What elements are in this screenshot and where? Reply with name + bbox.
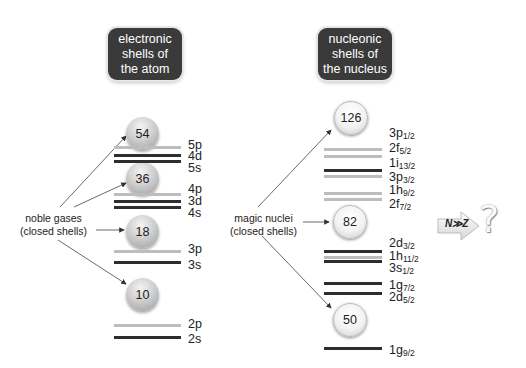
energy-level-2f5/2 [324, 155, 382, 158]
magic-number-ball: 82 [333, 205, 367, 239]
question-mark-icon: ? [479, 199, 499, 239]
level-label: 1g9/2 [389, 344, 415, 356]
energy-level-5p [114, 146, 181, 149]
level-label: 4s [188, 207, 201, 219]
energy-level-3s [114, 261, 181, 264]
magic-number-ball: 50 [333, 303, 367, 337]
magic-number-ball: 126 [334, 101, 368, 135]
level-label: 2s [188, 333, 201, 345]
energy-level-2s [114, 336, 181, 339]
level-label: 1h9/2 [389, 184, 415, 196]
energy-level-4d [114, 154, 181, 157]
pointer-arrows [0, 0, 526, 368]
energy-level-1i13/2 [324, 169, 382, 172]
level-label: 2p [188, 318, 202, 330]
energy-level-1h9/2 [324, 192, 382, 195]
energy-level-4s [114, 206, 181, 209]
level-label: 3p1/2 [389, 127, 415, 139]
energy-level-2d5/2 [324, 292, 382, 295]
magic-number-ball: 36 [126, 162, 159, 195]
level-label: 1i13/2 [389, 157, 415, 169]
label-line: (closed shells) [20, 225, 87, 238]
noble-gases-label: noble gases (closed shells) [20, 212, 87, 238]
neutron-rich-label: N≫Z [445, 218, 468, 229]
level-label: 2d5/2 [389, 291, 415, 303]
energy-level-3s1/2 [324, 260, 382, 263]
level-label: 3p [188, 243, 202, 255]
level-label: 3s1/2 [389, 262, 414, 274]
level-label: 2f7/2 [389, 198, 411, 210]
energy-level-2p [114, 324, 181, 327]
label-line: magic nuclei [230, 212, 297, 225]
energy-level-3d [114, 200, 181, 203]
level-label: 5s [188, 162, 201, 174]
magic-number-ball: 18 [126, 215, 159, 248]
magic-nuclei-label: magic nuclei (closed shells) [230, 212, 297, 238]
energy-level-1h11/2 [324, 256, 382, 259]
magic-number-ball: 10 [126, 278, 159, 311]
energy-level-3p3/2 [324, 175, 382, 178]
level-label: 3p3/2 [389, 171, 415, 183]
energy-level-5s [114, 160, 181, 163]
energy-level-2d3/2 [324, 250, 382, 253]
energy-level-1g7/2 [324, 282, 382, 285]
energy-level-4p [114, 193, 181, 196]
energy-level-2f7/2 [324, 198, 382, 201]
label-line: noble gases [20, 212, 87, 225]
level-label: 3s [188, 259, 201, 271]
level-label: 2d3/2 [389, 237, 415, 249]
level-label: 2f5/2 [389, 142, 411, 154]
energy-level-3p1/2 [324, 148, 382, 151]
energy-level-1g9/2 [324, 347, 382, 350]
energy-level-3p [114, 250, 181, 253]
label-line: (closed shells) [230, 225, 297, 238]
